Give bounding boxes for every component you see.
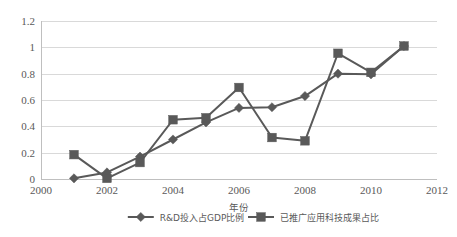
data-point-marker <box>400 42 409 51</box>
y-tick-label: 0.6 <box>21 94 35 106</box>
data-point-marker <box>169 115 178 124</box>
line-chart: 00.20.40.60.811.2 2000200220042006200820… <box>0 0 457 237</box>
legend-marker-diamond-icon <box>136 212 145 221</box>
data-point-marker <box>234 103 243 112</box>
x-tick-label: 2004 <box>162 184 185 196</box>
x-tick-label: 2000 <box>30 184 53 196</box>
y-axis-tick-labels: 00.20.40.60.811.2 <box>21 15 35 185</box>
legend-item-2[interactable]: 已推广应用科技成果占比 <box>248 212 379 223</box>
x-axis-tick-labels: 2000200220042006200820102012 <box>30 184 448 196</box>
x-axis-title-label: 年份 <box>229 202 249 213</box>
data-point-marker <box>136 158 145 167</box>
x-tick-label: 2006 <box>228 184 251 196</box>
chart-legend[interactable]: R&D投入占GDP比例已推广应用科技成果占比 <box>128 212 379 223</box>
gridlines <box>41 22 437 180</box>
x-tick-label: 2002 <box>96 184 118 196</box>
x-tick-label: 2010 <box>360 184 383 196</box>
x-tick-label: 2008 <box>294 184 317 196</box>
y-tick-label: 1 <box>30 41 36 53</box>
legend-label: R&D投入占GDP比例 <box>160 212 245 223</box>
legend-item-1[interactable]: R&D投入占GDP比例 <box>128 212 245 223</box>
y-tick-label: 0.4 <box>21 120 35 132</box>
data-point-marker <box>103 174 112 183</box>
data-point-marker <box>334 49 343 58</box>
data-point-marker <box>367 68 376 77</box>
data-point-marker <box>267 103 276 112</box>
legend-marker-square-icon <box>257 213 266 222</box>
legend-label: 已推广应用科技成果占比 <box>280 212 379 223</box>
x-axis-title: 年份 <box>229 202 249 213</box>
data-point-marker <box>168 135 177 144</box>
series-plot-area <box>69 41 408 183</box>
y-tick-label: 0.2 <box>21 147 35 159</box>
x-tick-label: 2012 <box>426 184 448 196</box>
chart-canvas: 00.20.40.60.811.2 2000200220042006200820… <box>0 0 457 237</box>
data-point-marker <box>235 83 244 92</box>
series-1 <box>69 41 408 183</box>
data-point-marker <box>202 113 211 122</box>
data-point-marker <box>268 133 277 142</box>
data-point-marker <box>69 174 78 183</box>
data-point-marker <box>70 150 79 159</box>
y-tick-label: 1.2 <box>21 15 35 27</box>
data-point-marker <box>301 137 310 146</box>
y-tick-label: 0.8 <box>21 68 35 80</box>
